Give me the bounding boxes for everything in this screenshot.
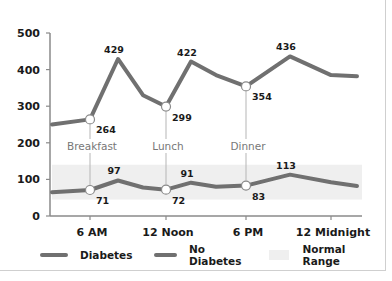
legend-item-normal-range: Normal Range xyxy=(269,243,370,267)
legend-label-normal-range: Normal Range xyxy=(303,243,370,267)
data-point-marker xyxy=(86,186,95,195)
legend-item-no-diabetes: No Diabetes xyxy=(154,243,247,267)
data-point-label: 422 xyxy=(177,47,197,58)
y-tick-label: 200 xyxy=(17,137,40,150)
data-point-label: 91 xyxy=(180,168,193,179)
legend: Diabetes No Diabetes Normal Range xyxy=(40,246,392,264)
data-point-label: 429 xyxy=(104,44,124,55)
line-chart: 01002003004005006 AM12 Noon6 PM12 Midnig… xyxy=(0,0,392,281)
data-point-marker xyxy=(242,82,251,91)
legend-label-no-diabetes: No Diabetes xyxy=(189,243,247,267)
x-tick-label: 6 PM xyxy=(233,226,264,239)
data-point-label: 264 xyxy=(96,124,116,135)
data-point-marker xyxy=(86,115,95,124)
data-point-marker xyxy=(162,102,171,111)
data-point-label: 83 xyxy=(252,191,265,202)
data-point-label: 436 xyxy=(276,41,296,52)
x-tick-label: 12 Midnight xyxy=(296,226,370,239)
y-tick-label: 500 xyxy=(17,27,40,40)
x-tick-label: 12 Noon xyxy=(142,226,193,239)
y-tick-label: 100 xyxy=(17,173,40,186)
normal-range-swatch-icon xyxy=(269,250,288,260)
legend-label-diabetes: Diabetes xyxy=(80,249,132,261)
data-point-label: 354 xyxy=(252,91,272,102)
data-point-label: 72 xyxy=(172,195,185,206)
y-tick-label: 400 xyxy=(17,64,40,77)
no-diabetes-line-swatch-icon xyxy=(154,253,177,257)
meal-label-breakfast: Breakfast xyxy=(67,140,117,152)
diabetes-line xyxy=(52,56,357,124)
data-point-label: 71 xyxy=(96,195,109,206)
diabetes-line-swatch-icon xyxy=(40,253,68,257)
legend-item-diabetes: Diabetes xyxy=(40,249,132,261)
x-tick-label: 6 AM xyxy=(77,226,108,239)
data-point-label: 299 xyxy=(172,112,192,123)
data-point-label: 113 xyxy=(276,160,296,171)
data-point-marker xyxy=(162,185,171,194)
meal-label-dinner: Dinner xyxy=(230,140,266,152)
data-point-marker xyxy=(242,181,251,190)
data-point-label: 97 xyxy=(107,165,120,176)
y-tick-label: 300 xyxy=(17,100,40,113)
y-tick-label: 0 xyxy=(32,210,40,223)
meal-label-lunch: Lunch xyxy=(152,140,183,152)
